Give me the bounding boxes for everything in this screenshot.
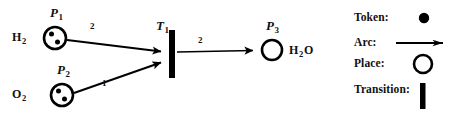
token xyxy=(55,40,60,45)
legend-item-arc-label: Arc: xyxy=(354,37,377,49)
place-label-p1-subscript: 1 xyxy=(58,12,63,22)
arc-p1-to-t1 xyxy=(67,40,161,52)
place-label-p2-subscript: 2 xyxy=(65,69,70,79)
arc-p2-to-t1 xyxy=(74,63,161,94)
place-label-p1: P1 xyxy=(50,6,63,22)
chem-label-h2o: H2O xyxy=(289,44,314,59)
transition-label-t1: T1 xyxy=(156,19,169,35)
diagram-canvas xyxy=(0,0,468,115)
chem-label-h2o-tail: O xyxy=(304,43,314,57)
transition-label-t1-subscript: 1 xyxy=(164,25,169,35)
transition-t1 xyxy=(169,30,175,78)
chem-label-o2: O2 xyxy=(12,88,27,103)
legend-item-place-label: Place: xyxy=(354,58,385,70)
legend-token-icon xyxy=(419,13,429,23)
chem-label-o2-text: O xyxy=(12,87,22,101)
token xyxy=(49,32,54,37)
arc-t1-to-p3 xyxy=(177,51,253,53)
legend-transition-icon xyxy=(420,83,426,109)
place-circle xyxy=(44,27,66,49)
chem-label-h2-text: H xyxy=(12,30,22,44)
transition-label-t1-text: T xyxy=(156,18,164,33)
arc-weight-t1-p3: 2 xyxy=(198,36,203,45)
transition-bar xyxy=(169,30,175,78)
place-label-p2-text: P xyxy=(57,62,65,77)
place-label-p2: P2 xyxy=(57,63,70,79)
legend-place-icon xyxy=(414,55,432,73)
chem-label-h2o-text: H xyxy=(289,43,299,57)
legend-item-transition-label: Transition: xyxy=(354,84,410,96)
place-p3 xyxy=(262,40,282,60)
place-label-p3: P3 xyxy=(266,19,279,35)
place-p1 xyxy=(44,27,66,49)
place-circle xyxy=(51,84,73,106)
chem-label-o2-subscript: 2 xyxy=(22,93,27,103)
arc-group xyxy=(67,40,253,93)
petri-net-figure: P1 H2 P2 O2 T1 P3 H2O 2 1 2 Token: Arc: … xyxy=(0,0,468,115)
legend-item-token-label: Token: xyxy=(354,12,389,24)
place-p2 xyxy=(51,84,73,106)
place-label-p3-text: P xyxy=(266,18,274,33)
place-label-p1-text: P xyxy=(50,5,58,20)
arc-weight-p1-t1: 2 xyxy=(90,22,95,31)
arc-weight-p2-t1: 1 xyxy=(102,79,107,88)
token xyxy=(56,89,61,94)
token xyxy=(62,97,67,102)
place-label-p3-subscript: 3 xyxy=(274,25,279,35)
chem-label-h2: H2 xyxy=(12,31,27,46)
place-circle xyxy=(262,40,282,60)
chem-label-h2-subscript: 2 xyxy=(22,36,27,46)
